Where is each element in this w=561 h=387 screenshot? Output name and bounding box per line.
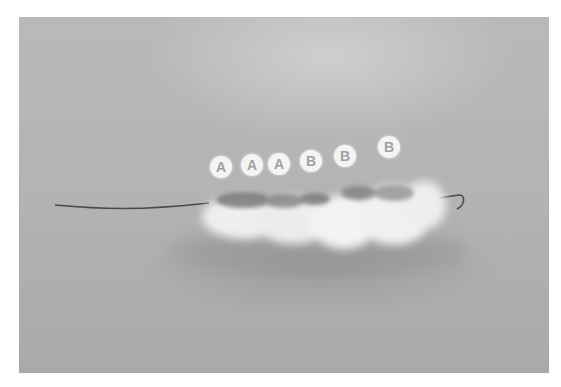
wire-left <box>55 203 209 209</box>
segment-label: A <box>210 156 232 178</box>
segment-label: B <box>378 136 400 158</box>
segment-label: A <box>241 154 263 176</box>
photo: A A A B B B <box>19 17 549 373</box>
segment-label: B <box>300 150 322 172</box>
fiber-bundle-illustration <box>19 17 549 373</box>
segment-label: A <box>268 153 290 175</box>
segment-label: B <box>334 145 356 167</box>
